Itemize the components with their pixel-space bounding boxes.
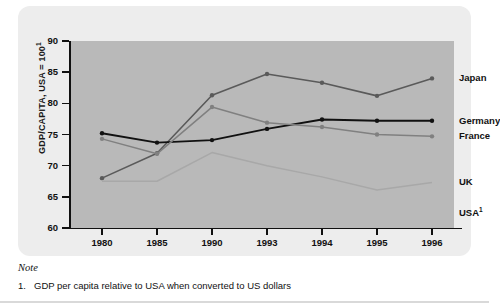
data-point-germany xyxy=(375,119,379,123)
chart-figure: GDP/CAPITA, USA = 1001 60657075808590 19… xyxy=(18,6,471,256)
data-point-france xyxy=(265,120,269,124)
series-line-uk xyxy=(102,153,432,190)
data-point-japan xyxy=(430,76,434,80)
bottom-divider xyxy=(0,301,489,303)
data-point-japan xyxy=(210,93,214,97)
data-point-france xyxy=(375,132,379,136)
data-point-france xyxy=(100,137,104,141)
legend-label-superscript: 1 xyxy=(479,206,483,213)
chart-series-layer xyxy=(18,6,471,256)
data-point-germany xyxy=(100,131,104,135)
data-point-germany xyxy=(210,138,214,142)
legend-label-japan: Japan xyxy=(459,72,486,83)
data-point-germany xyxy=(265,127,269,131)
note-heading: Note xyxy=(18,262,471,273)
data-point-germany xyxy=(430,119,434,123)
legend-label-france: France xyxy=(459,130,490,141)
data-point-germany xyxy=(320,117,324,121)
data-point-france xyxy=(210,105,214,109)
data-point-france xyxy=(430,134,434,138)
series-line-japan xyxy=(102,74,432,178)
data-point-japan xyxy=(375,94,379,98)
note-item-text: GDP per capita relative to USA when conv… xyxy=(34,280,291,291)
data-point-germany xyxy=(155,140,159,144)
note-item: 1. GDP per capita relative to USA when c… xyxy=(18,280,471,291)
legend-label-usa: USA1 xyxy=(459,206,483,218)
data-point-japan xyxy=(320,81,324,85)
legend-label-uk: UK xyxy=(459,176,473,187)
data-point-japan xyxy=(265,72,269,76)
data-point-france xyxy=(155,152,159,156)
legend-label-germany: Germany xyxy=(459,115,500,126)
data-point-japan xyxy=(100,176,104,180)
note-item-number: 1. xyxy=(18,280,28,291)
note-block: Note 1. GDP per capita relative to USA w… xyxy=(18,262,471,291)
data-point-france xyxy=(320,125,324,129)
